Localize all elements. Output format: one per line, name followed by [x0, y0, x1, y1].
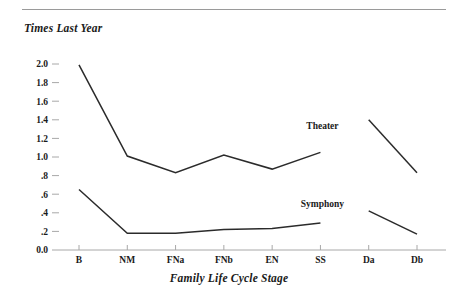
- x-tick-label: B: [76, 255, 83, 265]
- x-tick-label: SS: [315, 255, 326, 265]
- y-tick-label: 1.0: [36, 152, 48, 162]
- y-tick-label: 1.6: [36, 97, 48, 107]
- y-tick-label: .6: [41, 190, 48, 200]
- series-label-symphony: Symphony: [301, 199, 345, 209]
- chart-figure: Times Last Year 2.01.81.61.41.21.0.8.6.4…: [0, 0, 458, 297]
- x-axis: [52, 245, 446, 250]
- line-chart-plot: 2.01.81.61.41.21.0.8.6.4.20.0 BNMFNaFNbE…: [0, 0, 458, 297]
- data-series-lines: [79, 65, 417, 234]
- y-tick-marks: [52, 64, 59, 231]
- x-tick-labels: BNMFNaFNbENSSDaDb: [76, 255, 423, 265]
- y-tick-label: .4: [41, 208, 48, 218]
- x-tick-label: Da: [363, 255, 375, 265]
- series-line-symphony: [369, 211, 417, 234]
- y-tick-label: 1.2: [36, 134, 48, 144]
- x-tick-label: Db: [411, 255, 423, 265]
- y-tick-labels: 2.01.81.61.41.21.0.8.6.4.20.0: [36, 59, 48, 255]
- y-tick-label: 0.0: [36, 245, 48, 255]
- x-tick-label: FNa: [167, 255, 185, 265]
- series-line-theater: [79, 65, 320, 173]
- y-tick-label: 2.0: [36, 59, 48, 69]
- x-tick-label: EN: [266, 255, 279, 265]
- series-annotations: TheaterSymphony: [301, 121, 345, 209]
- y-tick-label: .2: [41, 227, 48, 237]
- x-tick-label: NM: [119, 255, 135, 265]
- x-axis-title: Family Life Cycle Stage: [0, 272, 458, 284]
- series-line-symphony: [79, 190, 320, 234]
- series-line-theater: [369, 120, 417, 173]
- y-tick-label: 1.4: [36, 115, 48, 125]
- series-label-theater: Theater: [306, 121, 339, 131]
- x-tick-label: FNb: [215, 255, 233, 265]
- y-tick-label: 1.8: [36, 78, 48, 88]
- y-tick-label: .8: [41, 171, 48, 181]
